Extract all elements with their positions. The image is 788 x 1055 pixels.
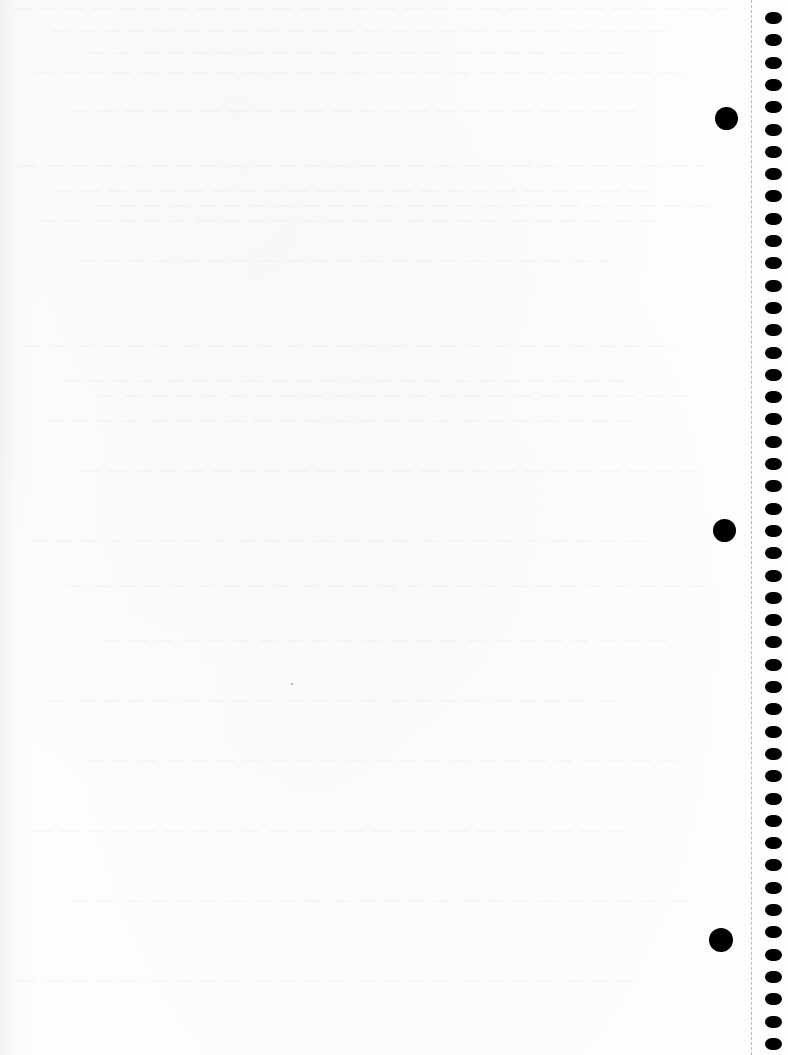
show-through-band [66,585,720,587]
spiral-hole [765,681,782,693]
show-through-band [29,540,653,542]
punch-hole [713,519,736,542]
spiral-hole [765,971,782,983]
show-through-band [98,395,692,397]
spiral-hole [765,101,782,113]
spiral-hole [765,480,782,492]
spiral-hole [765,57,782,69]
spiral-hole [765,369,782,381]
spiral-hole [765,570,782,582]
show-through-band [71,900,695,902]
spiral-hole [765,146,782,158]
show-through-band [51,30,675,32]
show-through-band [34,830,628,832]
show-through-band [40,220,664,222]
perforation-line [751,0,752,1055]
show-through-band [77,260,611,262]
show-through-band [61,380,625,382]
spiral-hole [765,1038,782,1050]
show-through-band [35,72,689,74]
spiral-hole [765,1016,782,1028]
spiral-hole [765,993,782,1005]
spiral-hole [765,190,782,202]
spiral-hole [765,436,782,448]
spiral-hole [765,324,782,336]
show-through-band [56,190,650,192]
spiral-hole [765,34,782,46]
spiral-binding [0,0,788,1055]
spiral-hole [765,926,782,938]
spiral-hole [765,413,782,425]
punch-hole [709,928,733,952]
spiral-hole [765,124,782,136]
spiral-hole [765,213,782,225]
show-through-band [50,700,614,702]
spiral-hole [765,302,782,314]
spiral-hole [765,525,782,537]
spiral-hole [765,79,782,91]
spiral-hole [765,837,782,849]
spiral-hole [765,592,782,604]
spiral-hole [765,458,782,470]
spiral-hole [765,547,782,559]
spiral-hole [765,257,782,269]
spiral-hole [765,904,782,916]
spiral-hole [765,636,782,648]
spiral-hole [765,726,782,738]
show-through-band [103,640,667,642]
show-through-band [19,165,703,167]
spiral-hole [765,235,782,247]
show-through-band [82,470,706,472]
spiral-hole [765,347,782,359]
spiral-hole [765,280,782,292]
spiral-hole [765,168,782,180]
spiral-hole [765,659,782,671]
spiral-hole [765,949,782,961]
show-through-band [93,205,717,207]
show-through-band [45,420,639,422]
spiral-hole [765,12,782,24]
spiral-hole [765,391,782,403]
show-through-band [72,110,636,112]
spiral-hole [765,748,782,760]
notebook-page [0,0,788,1055]
spiral-hole [765,614,782,626]
spiral-hole [765,882,782,894]
show-through-band [14,8,728,10]
paper-speck [291,683,293,685]
spiral-hole [765,815,782,827]
spiral-hole [765,770,782,782]
spiral-hole [765,503,782,515]
spiral-hole [765,859,782,871]
show-through-band [18,980,642,982]
show-through-band [87,760,681,762]
spiral-hole [765,703,782,715]
punch-hole [715,107,738,130]
spiral-hole [765,793,782,805]
show-through-band [24,345,678,347]
show-through-band [88,52,622,54]
